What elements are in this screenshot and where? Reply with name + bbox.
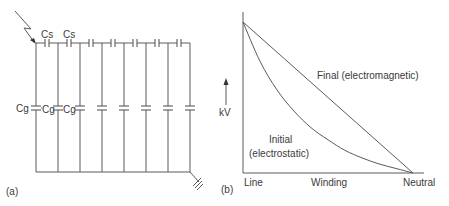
up-arrow-icon [224,78,229,105]
cg-label-2: Cg [42,104,55,115]
ground-capacitor-branch [141,43,151,172]
cs-label-2: Cs [63,29,75,40]
earth-ground-icon [190,172,203,190]
cs-label-1: Cs [41,29,53,40]
x-tick-line: Line [244,177,263,188]
series-capacitor [80,39,102,47]
ground-capacitor-branch [97,43,107,172]
series-capacitor [146,39,168,47]
final-curve-label: Final (electromagnetic) [317,70,419,81]
cg-label-3: Cg [63,104,76,115]
series-capacitor [102,39,124,47]
initial-curve-label-1: Initial [269,134,292,145]
panel-b-label: (b) [221,184,233,195]
cg-label-1: Cg [16,103,29,114]
ground-capacitor-branch [185,43,195,172]
series-capacitor [124,39,146,47]
x-tick-neutral: Neutral [403,177,435,188]
ground-capacitor-branch [163,43,173,172]
y-axis-label: kV [219,107,231,118]
series-capacitor [58,39,80,47]
x-tick-winding: Winding [311,177,347,188]
panel-a-label: (a) [6,186,18,197]
ground-capacitor-branch [75,43,85,172]
ground-capacitor-branch [119,43,129,172]
ground-capacitor-branch [31,43,41,172]
initial-curve-label-2: (electrostatic) [249,148,309,159]
capacitance-network-diagram: Cs Cs Cg Cg Cg (a) [6,11,203,197]
series-capacitor [36,39,58,47]
voltage-distribution-chart: kV Final (electromagnetic) Initial (elec… [219,12,435,195]
lightning-arrow-icon [15,11,36,44]
figure: Cs Cs Cg Cg Cg (a) kV Final (electromagn… [0,0,449,206]
series-capacitor [168,39,190,47]
